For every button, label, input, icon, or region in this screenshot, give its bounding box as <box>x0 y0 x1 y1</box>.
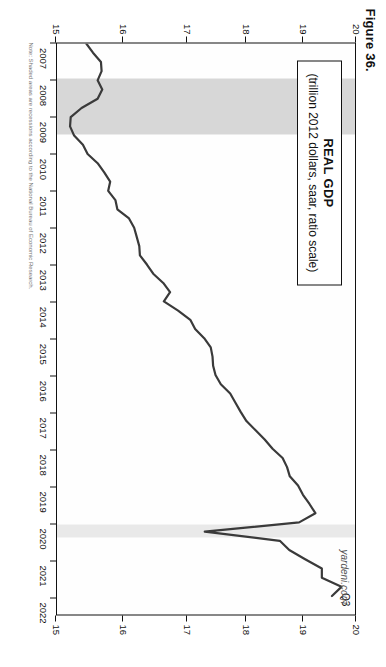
x-axis-tick <box>50 227 56 228</box>
x-axis-tick <box>50 449 56 450</box>
x-axis-tick <box>50 375 56 376</box>
x-axis-tick <box>50 190 56 191</box>
y-axis-tick <box>55 615 56 621</box>
legend-box: REAL GDP (trillion 2012 dollars, saar, r… <box>297 60 342 285</box>
watermark-label: yardeni.com <box>339 549 350 603</box>
y-axis-tick-label: 16 <box>118 20 129 34</box>
x-axis-tick-label: 2008 <box>38 84 49 105</box>
y-axis-tick-label: 20 <box>351 20 362 34</box>
x-axis-tick-label: 2013 <box>38 269 49 290</box>
x-axis-tick-label: 2010 <box>38 158 49 179</box>
y-axis-tick <box>186 36 187 42</box>
x-axis-tick-label: 2018 <box>38 454 49 475</box>
y-axis-tick <box>302 36 303 42</box>
y-axis-tick-label: 18 <box>241 20 252 34</box>
x-axis-tick <box>50 523 56 524</box>
x-axis-tick-label: 2022 <box>38 602 49 623</box>
y-axis-tick <box>186 615 187 621</box>
y-axis-tick <box>355 615 356 621</box>
x-axis-tick <box>50 153 56 154</box>
y-axis-tick-label: 20 <box>351 624 362 635</box>
x-axis-tick-label: 2019 <box>38 491 49 512</box>
x-axis-tick <box>50 560 56 561</box>
x-axis-tick <box>50 597 56 598</box>
x-axis-tick-label: 2014 <box>38 306 49 327</box>
x-axis-tick <box>50 264 56 265</box>
y-axis-tick <box>245 615 246 621</box>
y-axis-tick <box>122 615 123 621</box>
y-axis-tick-label: 17 <box>181 624 192 635</box>
y-axis-tick <box>55 36 56 42</box>
x-axis-tick-label: 2012 <box>38 232 49 253</box>
y-axis-tick <box>302 615 303 621</box>
x-axis-tick-label: 2009 <box>38 121 49 142</box>
x-axis-tick-label: 2011 <box>38 196 49 216</box>
source-note: Note: Shaded areas are recessions accord… <box>28 42 34 642</box>
x-axis-tick <box>50 486 56 487</box>
y-axis-tick-label: 16 <box>118 624 129 635</box>
x-axis-tick-label: 2017 <box>38 417 49 438</box>
y-axis-tick <box>245 36 246 42</box>
y-axis-tick <box>122 36 123 42</box>
legend-subtitle: (trillion 2012 dollars, saar, ratio scal… <box>305 73 319 272</box>
x-axis-tick <box>50 116 56 117</box>
figure-number-label: Figure 36. <box>363 8 378 71</box>
figure-canvas: Figure 36. REAL GDP (trillion 2012 dolla… <box>0 0 386 667</box>
x-axis-tick <box>50 301 56 302</box>
x-axis-tick-label: 2007 <box>38 47 49 68</box>
rotated-figure-wrapper: Figure 36. REAL GDP (trillion 2012 dolla… <box>0 0 386 667</box>
legend-title: REAL GDP <box>320 73 335 272</box>
y-axis-tick-label: 18 <box>241 624 252 635</box>
y-axis-tick-label: 19 <box>297 20 308 34</box>
y-axis-tick-label: 19 <box>297 624 308 635</box>
x-axis-tick-label: 2015 <box>38 343 49 364</box>
x-axis-tick-label: 2016 <box>38 380 49 401</box>
x-axis-tick <box>50 338 56 339</box>
y-axis-tick <box>355 36 356 42</box>
x-axis-tick-label: 2021 <box>38 565 49 586</box>
y-axis-tick-label: 17 <box>181 20 192 34</box>
y-axis-tick-label: 15 <box>51 624 62 635</box>
x-axis-tick <box>50 412 56 413</box>
x-axis-tick <box>50 79 56 80</box>
y-axis-tick-label: 15 <box>51 20 62 34</box>
x-axis-tick-label: 2020 <box>38 528 49 549</box>
